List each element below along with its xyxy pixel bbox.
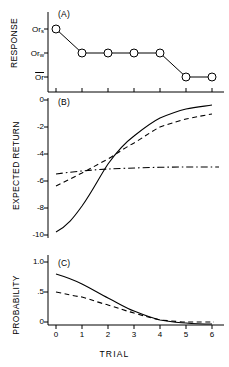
xtick-5: 5 <box>179 331 193 339</box>
xtick-6: 6 <box>205 331 219 339</box>
x-axis-title: TRIAL <box>0 349 229 359</box>
xtick-2: 2 <box>101 331 115 339</box>
xtick-4: 4 <box>153 331 167 339</box>
figure-container: RESPONSE (A) Ors Orw Or EXPECTED RETURN … <box>0 0 229 367</box>
xtick-1: 1 <box>75 331 89 339</box>
panel-c-plot <box>0 0 229 367</box>
xtick-3: 3 <box>127 331 141 339</box>
xtick-0: 0 <box>49 331 63 339</box>
